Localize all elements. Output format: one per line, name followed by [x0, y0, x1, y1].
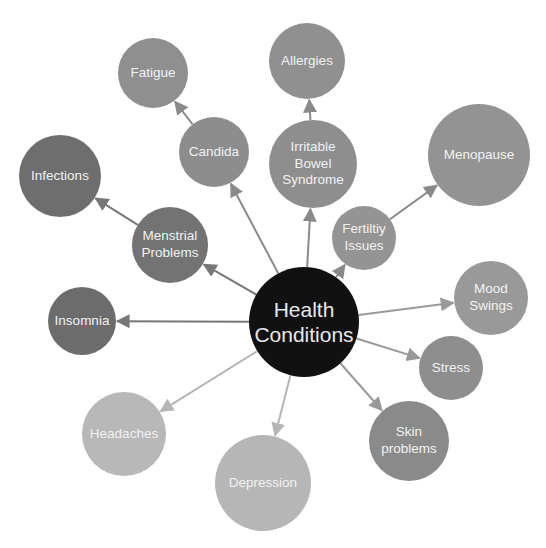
node-health[interactable]: Health Conditions	[249, 267, 359, 377]
node-insomnia[interactable]: Insomnia	[48, 287, 116, 355]
node-label: Allergies	[281, 53, 333, 70]
node-depression[interactable]: Depression	[215, 435, 311, 531]
node-label: Health Conditions	[254, 297, 353, 347]
arrow-health-to-stress	[356, 338, 419, 358]
node-label: Menopause	[444, 147, 515, 164]
node-label: Irritable Bowel Syndrome	[282, 139, 344, 190]
arrow-health-to-depression	[275, 375, 290, 435]
node-label: Depression	[229, 475, 297, 492]
node-label: Stress	[432, 360, 470, 377]
node-ibs[interactable]: Irritable Bowel Syndrome	[269, 120, 357, 208]
node-label: Candida	[189, 144, 239, 161]
node-label: Headaches	[90, 426, 158, 443]
node-fatigue[interactable]: Fatigue	[118, 38, 188, 108]
node-label: Skin problems	[381, 424, 437, 458]
arrow-health-to-mood	[359, 303, 454, 315]
arrow-health-to-fertility	[336, 265, 345, 277]
arrow-health-to-ibs	[307, 209, 310, 267]
node-label: Menstrial Problems	[141, 228, 198, 262]
arrow-candida-to-fatigue	[175, 101, 193, 124]
arrow-ibs-to-allergies	[309, 100, 310, 120]
node-headaches[interactable]: Headaches	[82, 392, 166, 476]
arrow-health-to-insomnia	[117, 321, 249, 322]
node-skin[interactable]: Skin problems	[369, 401, 449, 481]
node-candida[interactable]: Candida	[179, 117, 249, 187]
arrow-health-to-skin	[340, 363, 381, 410]
node-mood[interactable]: Mood Swings	[454, 261, 528, 335]
node-label: Insomnia	[55, 313, 110, 330]
arrow-health-to-menstrial	[204, 264, 256, 294]
arrow-health-to-headaches	[161, 351, 258, 411]
node-label: Fatigue	[130, 65, 175, 82]
node-menopause[interactable]: Menopause	[428, 104, 530, 206]
node-fertility[interactable]: Fertiltiy Issues	[332, 206, 396, 270]
arrow-health-to-candida	[231, 184, 278, 274]
node-allergies[interactable]: Allergies	[269, 23, 345, 99]
node-label: Fertiltiy Issues	[342, 221, 386, 255]
node-menstrial[interactable]: Menstrial Problems	[132, 207, 208, 283]
node-label: Infections	[31, 168, 89, 185]
node-stress[interactable]: Stress	[419, 336, 483, 400]
arrow-menstrial-to-infections	[96, 198, 138, 224]
node-infections[interactable]: Infections	[19, 135, 101, 217]
arrow-fertility-to-menopause	[390, 185, 437, 219]
node-label: Mood Swings	[469, 281, 513, 315]
